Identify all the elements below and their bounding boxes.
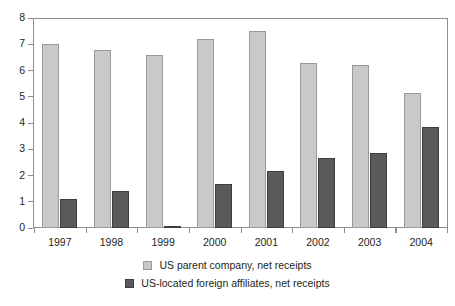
bar[interactable] xyxy=(197,39,214,228)
bar-chart: 012345678 199719981999200020012002200320… xyxy=(0,0,455,306)
x-axis: 19971998199920002001200220032004 xyxy=(33,228,448,254)
y-tick-mark xyxy=(28,123,33,124)
y-tick-mark xyxy=(28,96,33,97)
y-axis: 012345678 xyxy=(0,0,33,246)
bar[interactable] xyxy=(267,171,284,228)
y-tick-label: 3 xyxy=(19,142,25,155)
bars-layer xyxy=(34,19,447,228)
x-axis-label: 1998 xyxy=(100,236,123,248)
y-tick-label: 2 xyxy=(19,169,25,182)
bar-group xyxy=(146,19,181,228)
y-tick-label: 8 xyxy=(19,11,25,24)
y-tick-label: 7 xyxy=(19,37,25,50)
x-tick-mark xyxy=(189,228,190,233)
x-tick-mark xyxy=(344,228,345,233)
x-tick-mark xyxy=(86,228,87,233)
x-axis-label: 2004 xyxy=(410,236,433,248)
x-axis-label: 2003 xyxy=(358,236,381,248)
x-tick-mark xyxy=(395,228,396,233)
legend-item[interactable]: US parent company, net receipts xyxy=(143,258,311,273)
bar[interactable] xyxy=(60,199,77,228)
bar-group xyxy=(42,19,77,228)
bar[interactable] xyxy=(318,158,335,228)
bar[interactable] xyxy=(249,31,266,228)
x-axis-label: 1999 xyxy=(151,236,174,248)
bar[interactable] xyxy=(404,93,421,228)
bar-group xyxy=(404,19,439,228)
bar[interactable] xyxy=(112,191,129,228)
x-axis-label: 2001 xyxy=(255,236,278,248)
y-tick-mark xyxy=(28,175,33,176)
bar[interactable] xyxy=(300,63,317,228)
x-tick-mark xyxy=(241,228,242,233)
y-tick-label: 1 xyxy=(19,195,25,208)
y-tick-mark xyxy=(28,70,33,71)
x-tick-mark xyxy=(137,228,138,233)
bar[interactable] xyxy=(370,153,387,228)
x-tick-mark xyxy=(292,228,293,233)
legend-swatch-icon xyxy=(125,279,134,288)
y-tick-label: 5 xyxy=(19,90,25,103)
bar-group xyxy=(94,19,129,228)
bar-group xyxy=(352,19,387,228)
legend-label: US-located foreign affiliates, net recei… xyxy=(141,277,329,290)
x-tick-mark xyxy=(34,228,35,233)
y-tick-mark xyxy=(28,44,33,45)
bar-group xyxy=(197,19,232,228)
bar[interactable] xyxy=(215,184,232,228)
bar[interactable] xyxy=(94,50,111,229)
bar[interactable] xyxy=(352,65,369,228)
y-tick-label: 0 xyxy=(19,221,25,234)
y-tick-label: 6 xyxy=(19,64,25,77)
legend-swatch-icon xyxy=(143,261,152,270)
legend-item[interactable]: US-located foreign affiliates, net recei… xyxy=(125,276,329,291)
y-tick-mark xyxy=(28,201,33,202)
x-axis-label: 2000 xyxy=(203,236,226,248)
bar[interactable] xyxy=(42,44,59,228)
bar[interactable] xyxy=(146,55,163,228)
bar[interactable] xyxy=(422,127,439,228)
y-tick-mark xyxy=(28,18,33,19)
y-tick-mark xyxy=(28,149,33,150)
y-tick-label: 4 xyxy=(19,116,25,129)
bar-group xyxy=(249,19,284,228)
chart-legend: US parent company, net receiptsUS-locate… xyxy=(0,258,455,291)
bar-group xyxy=(300,19,335,228)
x-axis-label: 2002 xyxy=(306,236,329,248)
x-axis-label: 1997 xyxy=(48,236,71,248)
legend-label: US parent company, net receipts xyxy=(159,259,311,272)
x-tick-mark xyxy=(447,228,448,233)
